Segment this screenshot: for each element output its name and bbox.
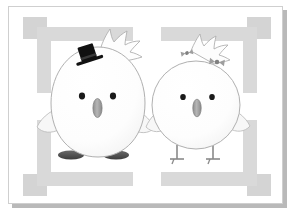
bride-eye-right bbox=[209, 94, 215, 100]
bride-bow-left bbox=[181, 49, 194, 57]
bride-chick bbox=[146, 34, 250, 164]
greeting-card bbox=[8, 6, 283, 204]
groom-beak bbox=[93, 99, 102, 118]
groom-eye-left bbox=[79, 93, 85, 100]
bride-beak bbox=[193, 99, 201, 117]
chick-artwork bbox=[9, 7, 283, 204]
groom-chick bbox=[37, 29, 154, 160]
groom-eye-right bbox=[110, 93, 116, 100]
illustration-canvas bbox=[0, 0, 292, 213]
bride-eye-left bbox=[180, 94, 186, 100]
